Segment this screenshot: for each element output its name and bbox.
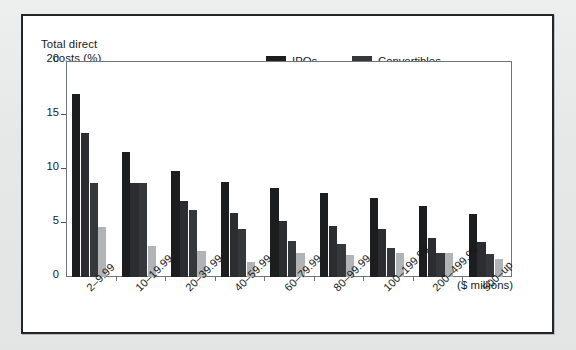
- figure-root: Total direct costs (%) Proceeds ($ milli…: [0, 0, 576, 350]
- y-axis-tick: 0: [35, 276, 66, 277]
- bar-ipos-6: [370, 198, 378, 277]
- bar-group: [122, 61, 157, 277]
- y-axis-tick: 10: [35, 168, 66, 169]
- bar-convertibles-1: [139, 183, 147, 277]
- y-axis-tick-label: 0: [53, 268, 59, 280]
- bar-group: [320, 61, 355, 277]
- bar-seos-0: [81, 133, 89, 277]
- y-axis-tick-label: 5: [53, 214, 59, 226]
- bar-seos-2: [180, 201, 188, 277]
- y-axis-tick-label: 10: [47, 160, 59, 172]
- bar-convertibles-0: [90, 183, 98, 277]
- bar-ipos-0: [72, 94, 80, 277]
- bar-group: [221, 61, 256, 277]
- bar-seos-1: [130, 183, 138, 277]
- bar-group: [270, 61, 305, 277]
- bar-group: [171, 61, 206, 277]
- y-axis-title-line1: Total direct: [41, 38, 97, 50]
- figure-panel: Total direct costs (%) Proceeds ($ milli…: [21, 14, 554, 334]
- bar-ipos-7: [419, 206, 427, 277]
- bar-convertibles-2: [189, 210, 197, 277]
- y-axis-tick: 15: [35, 114, 66, 115]
- bar-seos-8: [477, 242, 485, 277]
- bar-group: [72, 61, 107, 277]
- bar-seos-3: [230, 213, 238, 277]
- bar-ipos-4: [270, 188, 278, 277]
- y-axis-tick-label: 15: [47, 106, 59, 118]
- bar-series-container: [66, 61, 512, 277]
- bar-seos-5: [329, 226, 337, 277]
- y-axis-tick: 5: [35, 222, 66, 223]
- bar-seos-6: [378, 229, 386, 277]
- bar-ipos-5: [320, 193, 328, 277]
- bar-group: [370, 61, 405, 277]
- bar-ipos-1: [122, 152, 130, 277]
- bar-seos-7: [428, 238, 436, 277]
- x-axis-labels: 2–9.9910–19.9920–39.9940–59.9960–79.9980…: [66, 277, 512, 350]
- y-axis-tick: 20: [35, 60, 66, 61]
- bar-seos-4: [279, 221, 287, 277]
- y-axis-tick-label: 20: [47, 52, 59, 64]
- plot-area: 05101520 2–9.9910–19.9920–39.9940–59.996…: [66, 61, 512, 277]
